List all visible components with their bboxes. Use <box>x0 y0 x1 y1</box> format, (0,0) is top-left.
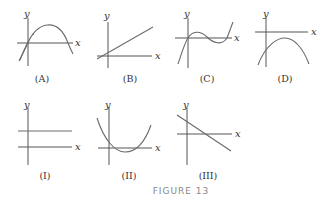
graph-iii: y x (III) <box>177 99 241 181</box>
curve-lower <box>19 43 28 61</box>
x-label: x <box>155 142 161 153</box>
graph-d: y x (D) <box>255 8 317 84</box>
y-label: y <box>23 99 30 110</box>
y-label: y <box>23 8 30 19</box>
graph-label: (A) <box>35 73 49 84</box>
graph-label: (C) <box>200 73 215 84</box>
x-label: x <box>311 26 317 37</box>
graph-a: y x (A) <box>17 8 81 84</box>
graph-label: (I) <box>39 170 50 181</box>
graph-label: (D) <box>277 73 292 84</box>
graph-label: (II) <box>122 170 137 181</box>
figure-13: y x (A) y x (B) y x (C) y x (D) y x (I) <box>0 0 332 203</box>
curve <box>97 118 151 152</box>
y-label: y <box>182 99 189 110</box>
graph-label: (B) <box>123 73 137 84</box>
x-label: x <box>155 50 161 61</box>
graph-ii: y x (II) <box>97 99 161 181</box>
graph-label: (III) <box>199 170 218 181</box>
x-label: x <box>75 141 81 152</box>
graph-b: y x (B) <box>97 10 161 84</box>
y-label: y <box>103 10 110 21</box>
y-label: y <box>104 99 111 110</box>
line <box>177 115 231 151</box>
x-label: x <box>234 32 240 43</box>
x-label: x <box>75 37 81 48</box>
curve <box>178 22 233 64</box>
y-label: y <box>262 8 269 19</box>
graph-c: y x (C) <box>175 8 240 84</box>
line <box>97 27 153 59</box>
x-label: x <box>235 128 241 139</box>
graph-i: y x (I) <box>18 99 81 181</box>
y-label: y <box>183 8 190 19</box>
figure-caption: FIGURE 13 <box>153 186 210 196</box>
